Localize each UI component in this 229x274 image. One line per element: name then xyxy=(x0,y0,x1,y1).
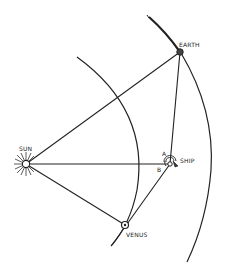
sun-label: SUN xyxy=(19,145,32,152)
venus-icon-core xyxy=(124,224,126,226)
ship-label: SHIP xyxy=(180,157,195,164)
earth-path-segment xyxy=(149,17,180,52)
orbital-diagram: SUN EARTH VENUS SHIP A B xyxy=(0,0,229,274)
venus-label: VENUS xyxy=(126,231,148,238)
angle-b-label: B xyxy=(157,166,161,173)
sun-earth-line xyxy=(26,52,180,164)
earth-label: EARTH xyxy=(179,41,200,48)
angle-a-label: A xyxy=(162,150,167,157)
ship-icon xyxy=(164,155,178,167)
ship-earth-line xyxy=(170,52,180,164)
sun-venus-line xyxy=(26,164,125,225)
earth-icon xyxy=(177,49,183,55)
earth-path-tick xyxy=(147,15,149,18)
venus-orbit xyxy=(77,57,139,246)
